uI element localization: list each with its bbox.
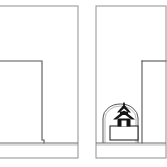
panel-left — [0, 6, 78, 158]
architectural-section-drawing — [0, 0, 167, 167]
shrine-doorway — [122, 121, 127, 127]
panel-right — [96, 6, 166, 158]
panel-left-frame — [0, 6, 78, 158]
shrine-plinth — [110, 126, 138, 140]
figure-root — [0, 0, 167, 167]
